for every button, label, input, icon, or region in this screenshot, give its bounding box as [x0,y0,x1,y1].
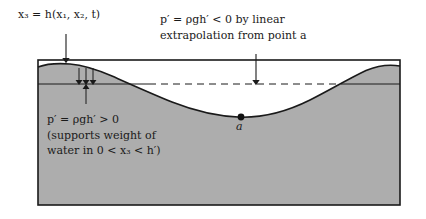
point-a-label: a [236,120,243,133]
extrapolation-annotation-line-2: extrapolation from point a [160,28,306,44]
positive-pressure-annotation: p′ = ρgh′ > 0 (supports weight of water … [47,112,161,159]
surface-height-label: x₃ = h(x₁, x₂, t) [18,7,100,23]
extrapolation-annotation: p′ = ρgh′ < 0 by linear extrapolation fr… [160,12,306,43]
extrapolation-annotation-line-1: p′ = ρgh′ < 0 by linear [160,12,306,28]
surface-height-label-text: x₃ = h(x₁, x₂, t) [18,8,100,21]
positive-pressure-line-2: (supports weight of [47,128,161,144]
positive-pressure-line-1: p′ = ρgh′ > 0 [47,112,161,128]
free-surface-pressure-diagram: x₃ = h(x₁, x₂, t) p′ = ρgh′ < 0 by linea… [0,0,426,219]
positive-pressure-line-3: water in 0 < x₃ < h′) [47,143,161,159]
